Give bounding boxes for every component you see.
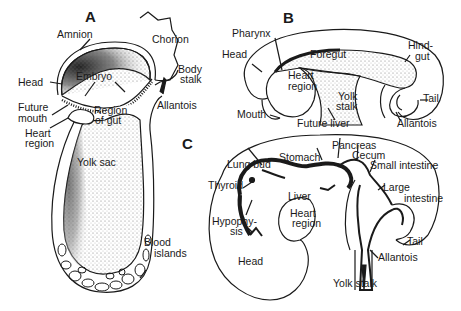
label-foregut: Foregut (310, 49, 346, 60)
label-mouth: Mouth (237, 109, 266, 120)
label-liver: Liver (288, 191, 311, 202)
label-tail-c: Tail (407, 236, 423, 247)
label-heart-region-a-2: region (25, 138, 54, 149)
label-hypophysis-2: sis (230, 226, 243, 237)
label-yolk-stalk-b-2: stalk (336, 101, 358, 112)
label-thyroid: Thyroid (208, 180, 243, 191)
label-blood-islands-2: islands (154, 248, 187, 259)
label-tail-b: Tail (423, 93, 439, 104)
label-yolk-stalk-c: Yolk stalk (333, 278, 377, 289)
label-head-a: Head (18, 77, 43, 88)
label-allantois-c: Allantois (378, 252, 418, 263)
label-heart-region-c-2: region (292, 218, 321, 229)
label-small-intestine: Small intestine (370, 160, 438, 171)
label-head-c: Head (238, 256, 263, 267)
label-region-of-gut-2: of gut (95, 115, 121, 126)
panel-label-c: C (182, 135, 193, 152)
label-allantois-a: Allantois (157, 100, 197, 111)
diagram-artwork (0, 0, 461, 311)
embryo-development-diagram: A B C Amnion Chorion Embryo Head Body st… (0, 0, 461, 311)
label-stomach: Stomach (279, 152, 320, 163)
panel-label-a: A (85, 8, 96, 25)
label-lung-bud: Lung bud (227, 159, 271, 170)
label-head-b: Head (222, 49, 247, 60)
label-amnion: Amnion (57, 29, 93, 40)
label-heart-region-b-2: region (288, 81, 317, 92)
label-allantois-b: Allantois (397, 118, 437, 129)
label-future-mouth-2: mouth (18, 113, 47, 124)
label-yolk-sac: Yolk sac (77, 157, 116, 168)
label-pharynx: Pharynx (232, 28, 271, 39)
label-embryo: Embryo (76, 71, 112, 82)
label-large-intestine-2: intestine (404, 193, 443, 204)
label-future-liver: Future liver (297, 118, 350, 129)
label-chorion: Chorion (152, 34, 189, 45)
label-hindgut-2: gut (415, 51, 430, 62)
panel-label-b: B (283, 9, 294, 26)
label-body-stalk-2: stalk (180, 74, 202, 85)
